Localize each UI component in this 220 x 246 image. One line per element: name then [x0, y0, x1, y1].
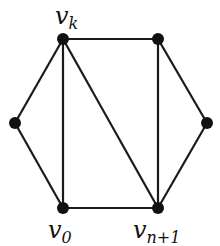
edges [15, 39, 207, 208]
graph-diagram: vk v0 vn+1 [0, 0, 220, 246]
label-v0: v0 [48, 216, 72, 246]
edge-tr-right [158, 39, 207, 123]
edge-vk-vn1 [63, 39, 158, 208]
node-v0 [57, 202, 69, 214]
label-vn1: vn+1 [133, 216, 180, 246]
label-vk: vk [55, 2, 78, 33]
node-right [201, 117, 213, 129]
node-left [9, 117, 21, 129]
edge-right-vn1 [158, 123, 207, 208]
node-vn1 [152, 202, 164, 214]
node-vk [57, 33, 69, 45]
edge-left-v0 [15, 123, 63, 208]
node-top-right [152, 33, 164, 45]
edge-vk-left [15, 39, 63, 123]
